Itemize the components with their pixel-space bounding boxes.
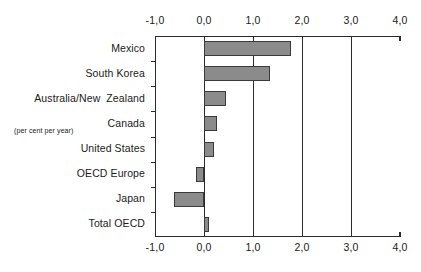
axis-line-bottom: [155, 236, 400, 237]
x-axis-label-bottom-3: 2,0: [282, 241, 322, 253]
category-label-australia-new-zealand: Australia/New Zealand: [34, 92, 145, 104]
bar-south-korea: [204, 66, 270, 81]
x-tick-bottom-4: [400, 232, 401, 237]
y-tick-3: [151, 111, 156, 112]
category-label-mexico: Mexico: [111, 42, 145, 54]
x-tick-top-4: [400, 36, 401, 41]
category-label-oecd-europe: OECD Europe: [77, 167, 145, 179]
y-tick-6: [151, 187, 156, 188]
gridline-3: [351, 36, 352, 237]
x-axis-label-top-4: 3,0: [331, 14, 371, 26]
bar-australia-new-zealand: [204, 91, 226, 106]
y-tick-4: [151, 137, 156, 138]
x-tick-bottom-2: [302, 232, 303, 237]
x-axis-label-bottom-5: 4,0: [380, 241, 420, 253]
y-tick-2: [151, 86, 156, 87]
x-axis-label-top-2: 1,0: [233, 14, 273, 26]
x-tick-bottom--1: [155, 232, 156, 237]
category-axis-labels: MexicoSouth KoreaAustralia/New ZealandCa…: [0, 36, 150, 237]
y-tick-1: [151, 61, 156, 62]
bar-japan: [174, 192, 204, 207]
bar-mexico: [204, 41, 291, 56]
category-label-canada: Canada: [108, 117, 145, 129]
x-axis-label-top-3: 2,0: [282, 14, 322, 26]
plot-area: [155, 36, 400, 237]
x-axis-label-bottom-2: 1,0: [233, 241, 273, 253]
x-tick-top-2: [302, 36, 303, 41]
x-tick-top--1: [155, 36, 156, 41]
category-label-total-oecd: Total OECD: [89, 217, 145, 229]
category-label-south-korea: South Korea: [86, 67, 145, 79]
x-axis-label-bottom-0: -1,0: [135, 241, 175, 253]
x-tick-bottom-1: [253, 232, 254, 237]
category-label-united-states: United States: [81, 142, 145, 154]
x-tick-bottom-0: [204, 232, 205, 237]
bar-total-oecd: [204, 217, 209, 232]
bar-united-states: [204, 142, 214, 157]
x-axis-label-bottom-4: 3,0: [331, 241, 371, 253]
bar-oecd-europe: [196, 167, 204, 182]
y-tick-7: [151, 212, 156, 213]
x-axis-label-bottom-1: 0,0: [184, 241, 224, 253]
bar-chart-figure: MexicoSouth KoreaAustralia/New ZealandCa…: [0, 0, 421, 272]
units-annotation: (per cent per year): [14, 127, 73, 134]
y-tick-5: [151, 162, 156, 163]
bar-canada: [204, 116, 217, 131]
x-tick-bottom-3: [351, 232, 352, 237]
x-axis-label-top-0: -1,0: [135, 14, 175, 26]
category-label-japan: Japan: [116, 192, 145, 204]
gridline-2: [302, 36, 303, 237]
x-tick-top-3: [351, 36, 352, 41]
axis-line-top: [155, 36, 400, 37]
x-axis-label-top-1: 0,0: [184, 14, 224, 26]
x-axis-label-top-5: 4,0: [380, 14, 420, 26]
